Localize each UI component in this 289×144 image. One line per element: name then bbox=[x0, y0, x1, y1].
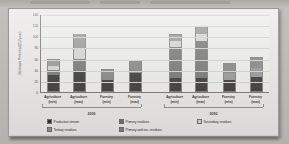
x-category-label: Forestry(max) bbox=[115, 95, 155, 106]
bar-segment bbox=[170, 78, 181, 91]
legend-item[interactable]: Tertiary residues bbox=[47, 127, 76, 132]
bar-segment bbox=[74, 71, 85, 91]
scan-speck bbox=[150, 1, 230, 4]
plot-area bbox=[40, 15, 269, 93]
y-tick-label: 100 bbox=[9, 35, 38, 39]
bar-segment bbox=[251, 68, 262, 77]
y-tick-label: 120 bbox=[9, 24, 38, 28]
bar-2[interactable] bbox=[101, 69, 114, 92]
legend-swatch-icon bbox=[47, 127, 52, 132]
y-axis-title: Biomass Potential (EJ/year) bbox=[15, 21, 24, 85]
x-category-label: Forestry(max) bbox=[236, 95, 276, 106]
bar-4[interactable] bbox=[169, 34, 182, 93]
legend-item[interactable]: Secondary residues bbox=[197, 119, 231, 124]
bar-segment bbox=[74, 49, 85, 59]
bar-segment bbox=[196, 78, 207, 92]
bar-segment bbox=[170, 47, 181, 77]
legend-label: Secondary residues bbox=[204, 120, 232, 124]
figure-root: Biomass Potential (EJ/year) 140120100806… bbox=[0, 0, 289, 144]
x-category-sub: (max) bbox=[115, 100, 155, 105]
legend-item[interactable]: Production stream bbox=[47, 119, 79, 124]
gridline bbox=[41, 82, 269, 83]
legend-item[interactable]: Primary and sec. residues bbox=[119, 127, 162, 132]
legend-label: Primary and sec. residues bbox=[126, 128, 162, 132]
bar-segment bbox=[196, 27, 207, 34]
gridline bbox=[41, 15, 269, 16]
chart-legend: Production streamPrimary residuesSeconda… bbox=[47, 119, 247, 133]
gridline bbox=[41, 48, 269, 49]
bar-1[interactable] bbox=[73, 34, 86, 93]
gridline bbox=[41, 60, 269, 61]
legend-label: Primary residues bbox=[126, 120, 150, 124]
group-year-label: 2030 bbox=[62, 112, 122, 116]
y-tick-label: 40 bbox=[9, 69, 38, 73]
y-tick-label: 20 bbox=[9, 80, 38, 84]
y-tick-label: 140 bbox=[9, 13, 38, 17]
card-shadow bbox=[10, 136, 278, 140]
bar-0[interactable] bbox=[47, 59, 60, 92]
legend-label: Tertiary residues bbox=[54, 128, 77, 132]
gridline bbox=[41, 26, 269, 27]
legend-swatch-icon bbox=[119, 127, 124, 132]
group-year-label: 2050 bbox=[184, 112, 244, 116]
gridline bbox=[41, 71, 269, 72]
gridline bbox=[41, 37, 269, 38]
group-bracket bbox=[42, 107, 141, 108]
group-bracket-tick bbox=[164, 104, 165, 107]
group-bracket-tick bbox=[42, 104, 43, 107]
legend-swatch-icon bbox=[119, 119, 124, 124]
y-tick-label: 60 bbox=[9, 58, 38, 62]
legend-swatch-icon bbox=[47, 119, 52, 124]
legend-swatch-icon bbox=[197, 119, 202, 124]
legend-label: Production stream bbox=[54, 120, 79, 124]
x-category-sub: (max) bbox=[236, 100, 276, 105]
bar-segment bbox=[224, 73, 235, 80]
bar-segment bbox=[251, 77, 262, 91]
bar-3[interactable] bbox=[129, 60, 142, 92]
group-bracket bbox=[164, 107, 263, 108]
scan-speck bbox=[30, 1, 90, 4]
group-bracket-tick bbox=[141, 104, 142, 107]
scan-speck bbox=[100, 1, 140, 4]
y-tick-label: 80 bbox=[9, 46, 38, 50]
bar-segment bbox=[48, 75, 59, 91]
bar-7[interactable] bbox=[250, 57, 263, 92]
group-bracket-tick bbox=[263, 104, 264, 107]
bar-6[interactable] bbox=[223, 63, 236, 92]
chart-card: Biomass Potential (EJ/year) 140120100806… bbox=[8, 8, 279, 137]
x-axis-labels: Agriculture(min)Agriculture(max)Forestry… bbox=[40, 95, 269, 119]
legend-item[interactable]: Primary residues bbox=[119, 119, 149, 124]
